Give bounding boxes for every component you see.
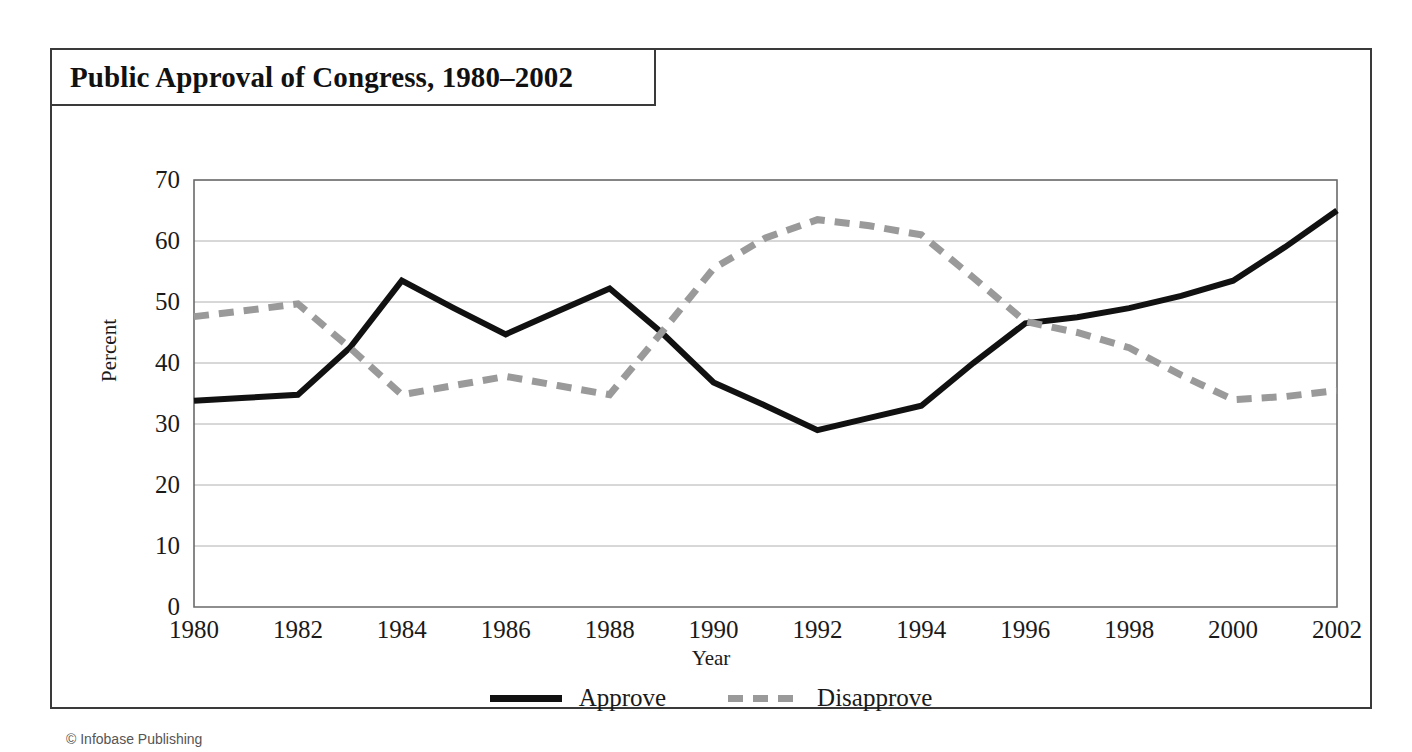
- y-tick-label: 40: [120, 350, 180, 375]
- x-tick-label: 2002: [1292, 617, 1382, 642]
- x-tick-label: 1986: [461, 617, 551, 642]
- y-tick-label: 50: [120, 289, 180, 314]
- x-tick-label: 1988: [565, 617, 655, 642]
- solid-line-swatch-icon: [490, 695, 562, 702]
- legend-item-approve: Approve: [490, 684, 666, 712]
- dashed-line-swatch-icon: [728, 695, 800, 702]
- x-tick-label: 1990: [669, 617, 759, 642]
- page-title: Public Approval of Congress, 1980–2002: [52, 61, 573, 94]
- chart-legend: Approve Disapprove: [52, 684, 1370, 712]
- y-tick-label: 70: [120, 167, 180, 192]
- x-tick-label: 1980: [149, 617, 239, 642]
- x-tick-label: 1992: [772, 617, 862, 642]
- x-axis-title: Year: [52, 646, 1370, 671]
- y-axis-title: Percent: [97, 286, 122, 416]
- chart-plot-area: 010203040506070 198019821984198619881990…: [52, 106, 1370, 707]
- x-tick-label: 1996: [980, 617, 1070, 642]
- figure-frame: Public Approval of Congress, 1980–2002 0…: [50, 48, 1372, 709]
- y-tick-label: 60: [120, 228, 180, 253]
- legend-label-disapprove: Disapprove: [817, 684, 932, 712]
- copyright-notice: © Infobase Publishing: [66, 731, 202, 747]
- chart-title-box: Public Approval of Congress, 1980–2002: [52, 50, 656, 106]
- series-line-disapprove: [194, 220, 1337, 400]
- axis-lines-group: [194, 180, 1337, 607]
- plot-frame: [194, 180, 1337, 607]
- x-tick-label: 1994: [876, 617, 966, 642]
- series-line-approve: [194, 211, 1337, 431]
- y-tick-label: 20: [120, 472, 180, 497]
- legend-item-disapprove: Disapprove: [728, 684, 932, 712]
- x-tick-label: 1982: [253, 617, 343, 642]
- y-tick-label: 30: [120, 411, 180, 436]
- data-series-group: [194, 211, 1337, 431]
- x-tick-label: 1984: [357, 617, 447, 642]
- x-tick-label: 2000: [1188, 617, 1278, 642]
- x-tick-label: 1998: [1084, 617, 1174, 642]
- y-tick-label: 10: [120, 533, 180, 558]
- legend-label-approve: Approve: [579, 684, 666, 712]
